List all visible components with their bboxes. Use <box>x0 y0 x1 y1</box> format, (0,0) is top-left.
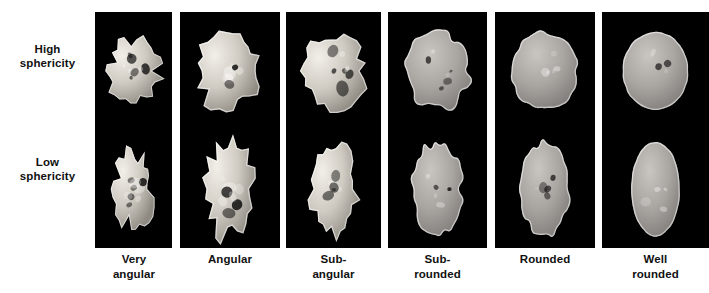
sub-angular-low-sphericity-grain <box>286 130 381 248</box>
sub-angular-high-sphericity-grain <box>286 12 381 130</box>
column-label-group: VeryangularAngularSub-angularSub-rounded… <box>95 252 709 293</box>
column-label-angular-line1: Angular <box>177 252 283 267</box>
row-label-high-sphericity: High sphericity <box>0 42 95 70</box>
column-label-sub-rounded: Sub-rounded <box>385 252 490 282</box>
very-angular-low-sphericity-grain <box>95 130 172 248</box>
grain-panel-rounded <box>495 12 595 248</box>
row-label-group: High sphericity Low sphericity <box>0 0 95 248</box>
grain-panel-sub-rounded <box>388 12 487 248</box>
column-label-well-rounded-line1: Well <box>599 252 709 267</box>
grain-panel-well-rounded <box>602 12 709 248</box>
row-label-low-line2: sphericity <box>0 169 95 183</box>
column-label-sub-angular-line1: Sub- <box>283 252 384 267</box>
column-label-sub-angular: Sub-angular <box>283 252 384 282</box>
grain-panel-sub-angular <box>286 12 381 248</box>
column-label-angular: Angular <box>177 252 283 267</box>
column-label-sub-angular-line2: angular <box>283 267 384 282</box>
well-rounded-low-sphericity-grain <box>602 130 709 248</box>
sub-rounded-low-sphericity-grain <box>388 130 487 248</box>
rounded-low-sphericity-grain <box>495 130 595 248</box>
grain-panel-angular <box>180 12 280 248</box>
column-label-well-rounded: Wellrounded <box>599 252 709 282</box>
row-label-low-sphericity: Low sphericity <box>0 155 95 183</box>
row-label-high-line1: High <box>0 42 95 56</box>
roundness-sphericity-chart: High sphericity Low sphericity Veryangul… <box>0 0 709 293</box>
very-angular-high-sphericity-grain <box>95 12 172 130</box>
column-label-well-rounded-line2: rounded <box>599 267 709 282</box>
well-rounded-high-sphericity-grain <box>602 12 709 130</box>
row-label-low-line1: Low <box>0 155 95 169</box>
column-label-sub-rounded-line2: rounded <box>385 267 490 282</box>
column-label-very-angular-line2: angular <box>89 267 179 282</box>
sub-rounded-high-sphericity-grain <box>388 12 487 130</box>
grain-panel-strip <box>95 12 709 248</box>
rounded-high-sphericity-grain <box>495 12 595 130</box>
angular-high-sphericity-grain <box>180 12 280 130</box>
grain-panel-very-angular <box>95 12 172 248</box>
column-label-sub-rounded-line1: Sub- <box>385 252 490 267</box>
column-label-very-angular: Veryangular <box>89 252 179 282</box>
column-label-rounded-line1: Rounded <box>492 252 598 267</box>
column-label-very-angular-line1: Very <box>89 252 179 267</box>
column-label-rounded: Rounded <box>492 252 598 267</box>
row-label-high-line2: sphericity <box>0 56 95 70</box>
angular-low-sphericity-grain <box>180 130 280 248</box>
